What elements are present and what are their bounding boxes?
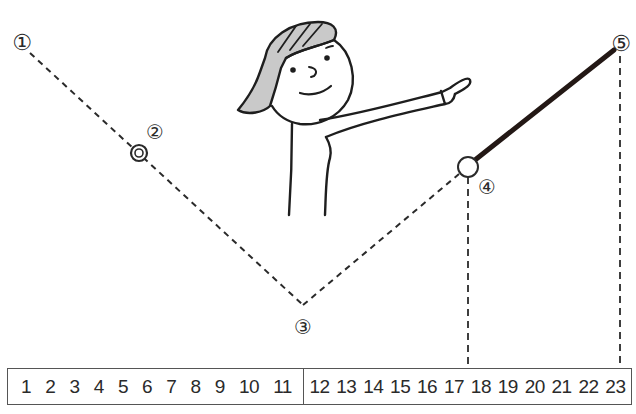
- number-cell: 8: [190, 376, 200, 398]
- number-cell: 3: [69, 376, 79, 398]
- number-line-right-section: 121314151617181920212223: [304, 369, 631, 404]
- number-cell: 14: [363, 376, 383, 398]
- hair: [238, 22, 336, 113]
- number-cell: 9: [215, 376, 225, 398]
- number-cell: 10: [239, 376, 259, 398]
- diagram-canvas: ① ② ③ ④ ⑤: [0, 0, 636, 414]
- number-cell: 18: [471, 376, 491, 398]
- point-label-5: ⑤: [611, 31, 631, 56]
- number-line-left-section: 1234567891011: [8, 369, 304, 404]
- number-cell: 13: [336, 376, 356, 398]
- number-cell: 1: [21, 376, 31, 398]
- number-cell: 19: [498, 376, 518, 398]
- marker-2-double-circle-icon: [131, 145, 147, 161]
- number-cell: 4: [94, 376, 104, 398]
- number-cell: 21: [552, 376, 572, 398]
- number-cell: 2: [45, 376, 55, 398]
- pointing-girl-illustration: [238, 22, 470, 215]
- thick-line-4-to-5: [475, 50, 614, 160]
- number-line-bar: 1234567891011 121314151617181920212223: [7, 368, 632, 405]
- number-cell: 6: [142, 376, 152, 398]
- marker-4-open-circle-icon: [458, 157, 478, 177]
- number-cell: 16: [417, 376, 437, 398]
- point-label-4: ④: [478, 176, 496, 198]
- number-cell: 17: [444, 376, 464, 398]
- number-cell: 5: [118, 376, 128, 398]
- number-cell: 23: [605, 376, 625, 398]
- number-cell: 12: [309, 376, 329, 398]
- point-label-3: ③: [294, 316, 312, 338]
- number-cell: 11: [273, 376, 292, 398]
- number-cell: 20: [525, 376, 545, 398]
- point-label-2: ②: [146, 121, 164, 143]
- point-label-1: ①: [12, 30, 32, 55]
- number-cell: 22: [578, 376, 598, 398]
- number-cell: 7: [166, 376, 176, 398]
- number-cell: 15: [390, 376, 410, 398]
